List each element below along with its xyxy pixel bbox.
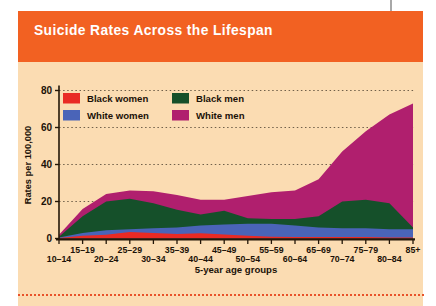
x-tick-label-4: 30–34 bbox=[141, 254, 166, 264]
y-tick-label-60: 60 bbox=[41, 122, 53, 133]
x-tick-label-6: 40–44 bbox=[188, 254, 213, 264]
y-tick-label-80: 80 bbox=[41, 85, 53, 96]
legend-label-black-men: Black men bbox=[196, 93, 244, 104]
y-tick-label-0: 0 bbox=[46, 233, 52, 244]
x-tick-label-5: 35–39 bbox=[165, 245, 190, 255]
x-tick-label-15: 85+ bbox=[406, 245, 421, 255]
x-tick-label-8: 50–54 bbox=[236, 254, 261, 264]
x-tick-label-1: 15–19 bbox=[70, 245, 95, 255]
x-tick-label-13: 75–79 bbox=[354, 245, 379, 255]
legend-label-white-women: White women bbox=[87, 110, 149, 121]
x-tick-label-0: 10–14 bbox=[47, 254, 72, 264]
legend-swatch-white-men bbox=[172, 110, 189, 121]
legend-swatch-black-men bbox=[172, 93, 189, 104]
suicide-rates-area-chart: 02040608010–1415–1920–2425–2930–3435–394… bbox=[0, 0, 436, 306]
x-tick-label-2: 20–24 bbox=[94, 254, 119, 264]
x-tick-label-3: 25–29 bbox=[118, 245, 143, 255]
x-tick-label-12: 70–74 bbox=[330, 254, 355, 264]
x-tick-label-11: 65–69 bbox=[306, 245, 331, 255]
legend-label-black-women: Black women bbox=[87, 93, 148, 104]
x-tick-label-14: 80–84 bbox=[377, 254, 402, 264]
bottom-dotted-border bbox=[18, 294, 424, 296]
y-axis-title: Rates per 100,000 bbox=[23, 126, 33, 205]
x-tick-label-10: 60–64 bbox=[283, 254, 308, 264]
x-tick-label-7: 45–49 bbox=[212, 245, 237, 255]
y-tick-label-20: 20 bbox=[41, 196, 53, 207]
x-axis-title: 5-year age groups bbox=[195, 264, 278, 275]
y-tick-label-40: 40 bbox=[41, 159, 53, 170]
legend-swatch-white-women bbox=[63, 110, 80, 121]
legend-label-white-men: White men bbox=[196, 110, 245, 121]
legend-swatch-black-women bbox=[63, 93, 80, 104]
x-tick-label-9: 55–59 bbox=[259, 245, 284, 255]
